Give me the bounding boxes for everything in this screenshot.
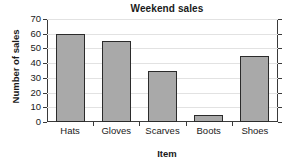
y-tick-mark-right: [278, 34, 282, 35]
bar: [240, 56, 269, 122]
y-tick-mark-right: [278, 19, 282, 20]
bar: [194, 115, 223, 122]
y-axis-title: Number of sales: [10, 15, 21, 119]
y-tick-mark-right: [278, 48, 282, 49]
y-tick-mark-right: [278, 107, 282, 108]
x-category-label: Boots: [186, 125, 232, 136]
y-tick-label: 40: [30, 58, 41, 68]
x-category-label: Shoes: [232, 125, 278, 136]
chart-title: Weekend sales: [40, 3, 294, 15]
bars: [47, 19, 278, 122]
y-tick-mark-right: [278, 93, 282, 94]
plot-area: 010203040506070: [47, 19, 278, 122]
y-tick-mark: [43, 122, 47, 123]
x-category-label: Scarves: [139, 125, 185, 136]
bar: [56, 34, 85, 122]
x-axis-title: Item: [40, 148, 294, 159]
y-tick-label: 30: [30, 73, 41, 83]
y-tick-label: 70: [30, 14, 41, 24]
y-tick-mark-right: [278, 63, 282, 64]
y-tick-label: 60: [30, 29, 41, 39]
y-tick-label: 20: [30, 88, 41, 98]
y-tick-mark-right: [278, 78, 282, 79]
y-tick-mark-right: [278, 122, 282, 123]
bar: [102, 41, 131, 122]
x-category-label: Gloves: [93, 125, 139, 136]
y-tick-label: 0: [36, 117, 41, 127]
y-tick-label: 50: [30, 43, 41, 53]
bar-chart: Weekend sales Number of sales 0102030405…: [0, 0, 294, 165]
x-category-label: Hats: [47, 125, 93, 136]
y-tick-label: 10: [30, 102, 41, 112]
bar: [148, 71, 177, 123]
